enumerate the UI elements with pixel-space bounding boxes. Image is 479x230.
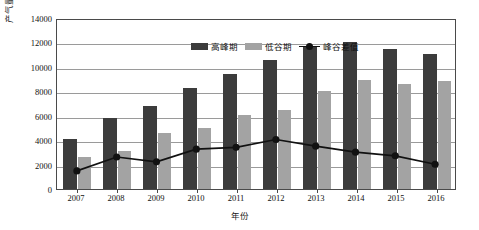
x-axis-tick: 2016: [413, 193, 459, 203]
legend-item-difference: 峰谷差值: [299, 40, 359, 52]
difference-marker: [312, 143, 319, 150]
y-axis-tick: 2000: [4, 161, 52, 171]
difference-marker: [193, 146, 200, 153]
y-axis-tick: 4000: [4, 136, 52, 146]
legend-label-difference: 峰谷差值: [323, 40, 359, 52]
plot-area: 高峰期 低谷期 峰谷差值: [56, 19, 456, 190]
legend-swatch-difference: [299, 42, 320, 50]
y-axis-tick: 0: [4, 185, 52, 195]
difference-marker: [73, 167, 80, 174]
legend-swatch-peak: [191, 43, 208, 50]
difference-marker: [272, 136, 279, 143]
difference-marker: [233, 144, 240, 151]
y-axis-tick: 12000: [4, 38, 52, 48]
chart-figure: 产气量（104m³/d） 高峰期 低谷期 峰谷差值 02000400060008…: [0, 0, 479, 230]
legend-swatch-valley: [245, 43, 262, 50]
x-axis-title: 年份: [0, 209, 479, 221]
difference-marker: [352, 149, 359, 156]
legend-label-peak: 高峰期: [211, 40, 238, 52]
legend-item-valley: 低谷期: [245, 40, 292, 52]
difference-marker: [113, 153, 120, 160]
difference-marker: [432, 161, 439, 168]
y-axis-tick: 6000: [4, 112, 52, 122]
legend: 高峰期 低谷期 峰谷差值: [191, 40, 359, 52]
y-axis-tick: 8000: [4, 87, 52, 97]
y-axis-tick: 14000: [4, 14, 52, 24]
legend-item-peak: 高峰期: [191, 40, 238, 52]
difference-marker: [392, 152, 399, 159]
legend-label-valley: 低谷期: [265, 40, 292, 52]
difference-marker: [153, 158, 160, 165]
difference-line: [77, 140, 435, 171]
y-axis-tick: 10000: [4, 63, 52, 73]
